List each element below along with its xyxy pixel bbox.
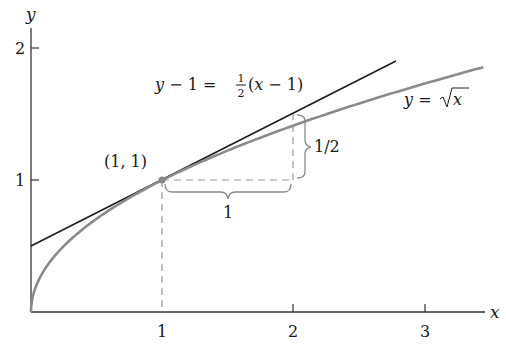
curve-eq-lhs: y = bbox=[403, 90, 437, 109]
tangent-eq-lhs: y − 1 = bbox=[154, 75, 221, 94]
x-tick-label-1: 1 bbox=[157, 322, 167, 341]
curve-equation: y = x bbox=[403, 88, 469, 109]
x-tick-label-2: 2 bbox=[288, 322, 298, 341]
run-label: 1 bbox=[223, 203, 233, 222]
tangent-eq-numerator: 1 bbox=[238, 72, 245, 85]
x-axis-label: x bbox=[490, 302, 500, 322]
y-axis-label: y bbox=[25, 4, 36, 24]
run-brace bbox=[165, 184, 291, 199]
tangent-line-diagram: x y 1 2 3 1 2 1 1/2 (1, 1) y − 1 = 1 2 (… bbox=[0, 0, 506, 347]
tangent-eq-rhs: (x − 1) bbox=[248, 75, 303, 94]
tangent-eq-denominator: 2 bbox=[238, 87, 245, 100]
y-tick-label-1: 1 bbox=[15, 171, 25, 190]
x-tick-label-3: 3 bbox=[420, 322, 430, 341]
curve-eq-radicand: x bbox=[453, 90, 462, 109]
y-tick-label-2: 2 bbox=[15, 39, 25, 58]
rise-label: 1/2 bbox=[314, 137, 340, 156]
axes bbox=[31, 28, 485, 312]
tangent-point bbox=[159, 177, 166, 184]
tangent-equation: y − 1 = 1 2 (x − 1) bbox=[154, 72, 303, 100]
point-label: (1, 1) bbox=[104, 152, 147, 171]
